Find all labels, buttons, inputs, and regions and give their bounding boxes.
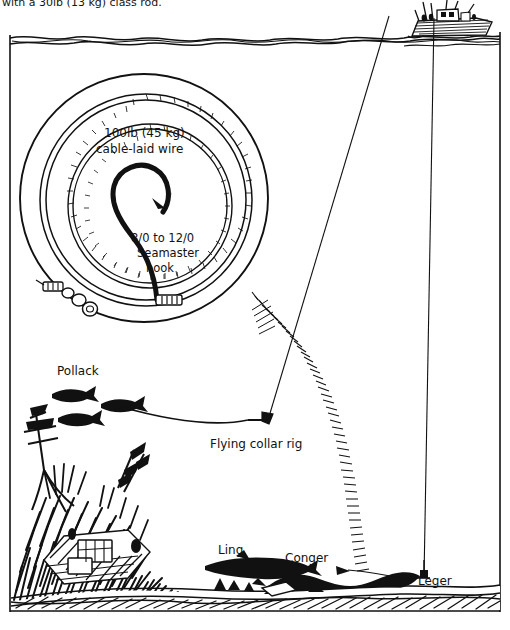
fishing-boat bbox=[408, 0, 492, 38]
figure-canvas: with a 30lb (13 kg) class rod. bbox=[0, 0, 510, 630]
label-conger: Conger bbox=[285, 551, 328, 565]
shipwreck-and-kelp bbox=[11, 404, 180, 605]
crimp-sleeve bbox=[156, 295, 182, 305]
hook-label-line1: 8/0 to 12/0 bbox=[131, 232, 194, 246]
pollack-group bbox=[52, 386, 148, 426]
sea-surface-line bbox=[10, 36, 500, 46]
scene-illustration bbox=[0, 0, 510, 630]
label-ling: Ling bbox=[218, 543, 243, 557]
flying-collar-line bbox=[268, 16, 389, 420]
flying-collar-rig-boom bbox=[248, 412, 273, 424]
leger-line bbox=[424, 18, 434, 578]
label-flying-collar-rig: Flying collar rig bbox=[210, 437, 302, 451]
coiled-wire-inset bbox=[20, 74, 275, 334]
label-pollack: Pollack bbox=[57, 364, 99, 378]
swivel-and-link bbox=[36, 280, 98, 316]
hook-label-line2: Seamaster bbox=[137, 247, 199, 261]
wire-label-line1: 100lb (45 kg) bbox=[104, 126, 185, 140]
hook-label-line3: hook bbox=[146, 262, 174, 276]
depth-arc-hatching bbox=[252, 292, 369, 571]
label-leger: Leger bbox=[418, 574, 452, 588]
wire-label-line2: cable-laid wire bbox=[96, 142, 183, 156]
conger-hook bbox=[336, 566, 350, 575]
